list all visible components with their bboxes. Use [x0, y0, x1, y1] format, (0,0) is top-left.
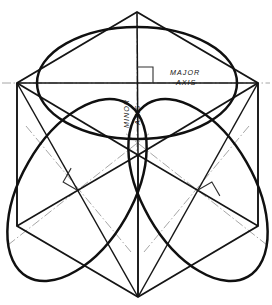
major-axis-label-line1: MAJOR [170, 68, 200, 77]
figure-background [0, 0, 272, 305]
isometric-ellipse-figure: MAJOR AXIS MINOR AXIS [0, 0, 272, 305]
top-face-short-diagonal [137, 12, 138, 155]
major-axis-label-line2: AXIS [175, 78, 196, 87]
minor-axis-label-line2: AXIS [133, 105, 142, 126]
minor-axis-label-line1: MINOR [122, 99, 131, 128]
